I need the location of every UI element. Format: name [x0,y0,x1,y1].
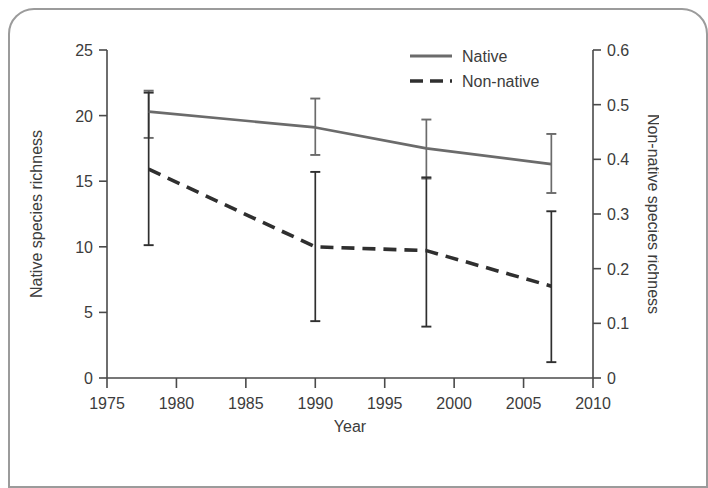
legend-label-non-native: Non-native [462,73,539,90]
right-tick-label: 0.5 [607,97,629,114]
x-tick-label: 1995 [367,395,403,412]
left-tick-label: 10 [75,239,93,256]
right-tick-label: 0.4 [607,151,629,168]
x-tick-label: 2005 [506,395,542,412]
x-axis-ticks: 19751980198519901995200020052010 [89,378,611,412]
series-line-non-native [149,169,552,286]
x-tick-label: 2000 [436,395,472,412]
error-bars [144,91,557,362]
x-tick-label: 2010 [575,395,611,412]
right-tick-label: 0.6 [607,42,629,59]
right-axis-ticks: 00.10.20.30.40.50.6 [593,42,629,387]
series-line-native [149,112,552,164]
left-tick-label: 25 [75,42,93,59]
x-tick-label: 1975 [89,395,125,412]
left-axis-title: Native species richness [28,130,45,298]
right-tick-label: 0 [607,370,616,387]
right-tick-label: 0.3 [607,206,629,223]
left-tick-label: 5 [84,304,93,321]
left-tick-label: 0 [84,370,93,387]
right-tick-label: 0.1 [607,315,629,332]
left-tick-label: 20 [75,108,93,125]
left-tick-label: 15 [75,173,93,190]
x-tick-label: 1990 [297,395,333,412]
series-lines [149,112,552,287]
chart-legend: Native Non-native [410,48,539,90]
axis-lines [107,50,593,378]
right-axis-title: Non-native species richness [645,114,659,314]
left-axis-ticks: 0510152025 [75,42,107,387]
x-tick-label: 1985 [228,395,264,412]
right-tick-label: 0.2 [607,261,629,278]
x-tick-label: 1980 [159,395,195,412]
x-axis-title: Year [334,418,367,435]
legend-label-native: Native [462,48,507,65]
